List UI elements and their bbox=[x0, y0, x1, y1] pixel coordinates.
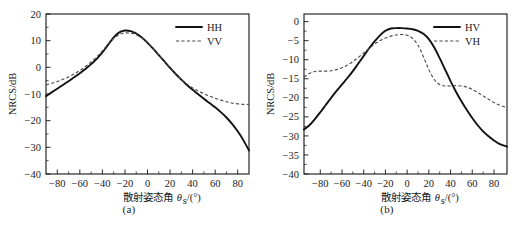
y-tick-label: 10 bbox=[31, 35, 42, 46]
legend-label-hv: HV bbox=[465, 22, 481, 33]
x-tick-label: −80 bbox=[312, 178, 328, 189]
plot-area: −80−60−40−20020406080−40−30−20−1001020NR… bbox=[7, 9, 249, 206]
x-tick-label: 40 bbox=[187, 178, 198, 189]
y-tick-label: −40 bbox=[25, 169, 41, 180]
x-tick-label: 40 bbox=[445, 178, 456, 189]
x-tick-label: −40 bbox=[355, 178, 371, 189]
plot-area: −80−60−40−20020406080−40−35−30−25−20−15−… bbox=[265, 14, 507, 206]
y-tick-label: −15 bbox=[283, 73, 299, 84]
x-tick-label: 80 bbox=[232, 178, 243, 189]
x-tick-label: −60 bbox=[334, 178, 350, 189]
y-tick-label: −40 bbox=[283, 169, 299, 180]
y-tick-label: −20 bbox=[25, 115, 41, 126]
x-tick-label: 80 bbox=[489, 178, 500, 189]
legend: HVVH bbox=[434, 22, 481, 47]
x-tick-label: 0 bbox=[405, 178, 410, 189]
x-tick-label: −40 bbox=[94, 178, 110, 189]
y-tick-label: −5 bbox=[288, 35, 299, 46]
y-tick-label: 20 bbox=[31, 9, 42, 20]
y-tick-label: −30 bbox=[25, 142, 41, 153]
svg-text:散射姿态角: 散射姿态角 bbox=[123, 191, 173, 203]
x-tick-label: −60 bbox=[72, 178, 88, 189]
y-axis-title: NRCS/dB bbox=[7, 73, 18, 116]
y-axis-title: NRCS/dB bbox=[265, 73, 276, 116]
chart-svg-b: −80−60−40−20020406080−40−35−30−25−20−15−… bbox=[258, 0, 516, 228]
legend-label-vv: VV bbox=[207, 36, 223, 47]
y-tick-label: −30 bbox=[283, 131, 299, 142]
svg-text:散射姿态角: 散射姿态角 bbox=[381, 191, 431, 203]
legend-label-hh: HH bbox=[207, 22, 223, 33]
x-tick-label: −20 bbox=[117, 178, 133, 189]
legend: HHVV bbox=[176, 22, 223, 47]
legend-label-vh: VH bbox=[465, 36, 481, 47]
x-tick-label: 0 bbox=[145, 178, 150, 189]
subfigure-caption-a: (a) bbox=[0, 203, 258, 215]
subfigure-caption-b: (b) bbox=[258, 203, 516, 215]
x-tick-label: 20 bbox=[165, 178, 176, 189]
x-tick-label: −80 bbox=[49, 178, 65, 189]
svg-text:θ: θ bbox=[435, 192, 440, 203]
svg-text:θ: θ bbox=[177, 192, 182, 203]
y-tick-label: 0 bbox=[294, 16, 299, 27]
chart-svg-a: −80−60−40−20020406080−40−30−20−1001020NR… bbox=[0, 0, 258, 228]
x-tick-label: 20 bbox=[424, 178, 435, 189]
x-tick-label: 60 bbox=[467, 178, 478, 189]
y-tick-label: −20 bbox=[283, 92, 299, 103]
y-tick-label: −10 bbox=[25, 89, 41, 100]
y-tick-label: 0 bbox=[36, 62, 41, 73]
y-tick-label: −35 bbox=[283, 150, 299, 161]
x-tick-label: 60 bbox=[210, 178, 221, 189]
data-curve-hh bbox=[46, 30, 249, 150]
chart-panel-a: −80−60−40−20020406080−40−30−20−1001020NR… bbox=[0, 0, 258, 228]
y-tick-label: −10 bbox=[283, 54, 299, 65]
figure-container: −80−60−40−20020406080−40−30−20−1001020NR… bbox=[0, 0, 516, 228]
x-tick-label: −20 bbox=[377, 178, 393, 189]
chart-panel-b: −80−60−40−20020406080−40−35−30−25−20−15−… bbox=[258, 0, 516, 228]
y-tick-label: −25 bbox=[283, 111, 299, 122]
